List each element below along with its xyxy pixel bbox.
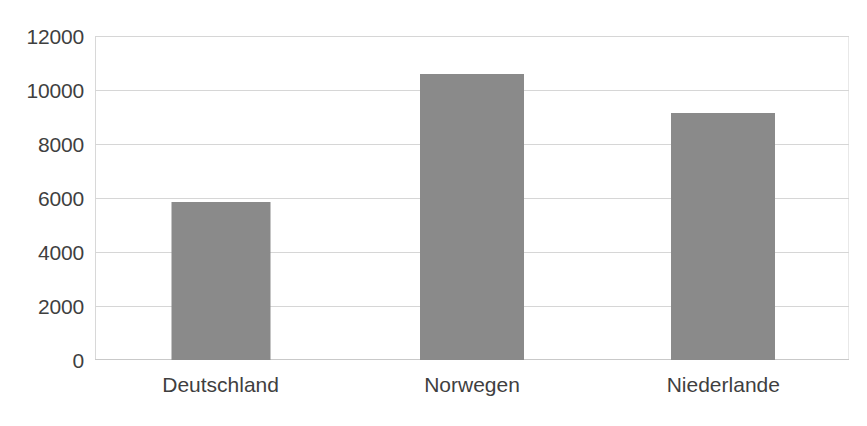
bar-norwegen bbox=[420, 74, 524, 360]
bar-deutschland bbox=[171, 202, 270, 360]
bar-series bbox=[95, 36, 849, 360]
y-tick-label: 12000 bbox=[0, 26, 84, 47]
plot-area bbox=[95, 36, 849, 360]
bar-slot bbox=[598, 36, 849, 360]
y-tick-label: 10000 bbox=[0, 80, 84, 101]
x-tick-label-niederlande: Niederlande bbox=[667, 374, 780, 395]
y-tick-label: 6000 bbox=[0, 188, 84, 209]
bar-chart: 12000 10000 8000 6000 4000 2000 0 bbox=[0, 0, 867, 426]
x-tick-label-deutschland: Deutschland bbox=[162, 374, 279, 395]
y-tick-label: 8000 bbox=[0, 134, 84, 155]
bar-slot bbox=[346, 36, 597, 360]
y-tick-label: 0 bbox=[0, 350, 84, 371]
bar-niederlande bbox=[671, 113, 775, 360]
bar-slot bbox=[95, 36, 346, 360]
x-axis: Deutschland Norwegen Niederlande bbox=[95, 368, 849, 412]
x-tick-label-norwegen: Norwegen bbox=[424, 374, 520, 395]
y-tick-label: 2000 bbox=[0, 296, 84, 317]
y-tick-label: 4000 bbox=[0, 242, 84, 263]
y-axis: 12000 10000 8000 6000 4000 2000 0 bbox=[0, 0, 84, 426]
